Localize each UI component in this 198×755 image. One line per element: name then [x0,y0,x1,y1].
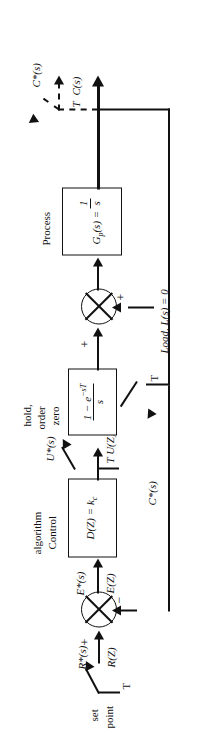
output-label: C(s) [70,76,82,95]
setpoint-arrowhead-icon [94,630,104,639]
error-arrowhead-icon [93,558,103,567]
reference-z-label: R(Z) [105,647,117,667]
summer2-load-plus-sign: + [114,293,129,300]
zoh-caption-line1: zero [49,406,61,425]
control-algorithm-transfer-function: D(Z) = kc [85,496,100,539]
summer2-to-process-line [97,264,99,290]
output-sampler-dashed-branch-horizontal [58,82,60,110]
control-star-label: U*(s) [44,436,56,461]
control-algorithm-caption-line2: algorithm [31,511,43,554]
control-output-arrowhead-icon [93,447,103,456]
load-arrowhead-icon [112,302,121,312]
zero-order-hold-transfer-function: 1 − e−sT s [80,383,105,419]
output-star-arrowhead-icon [54,75,64,84]
set-point-label-line2: point [103,705,115,728]
zoh-output-arrowhead-icon [93,327,103,336]
output-sampler-blade-arrowhead-icon [26,113,39,126]
control-algorithm-block: D(Z) = kc [68,478,117,557]
control-algorithm-caption-line1: Control [46,515,58,549]
control-z-label: T U(Z) [104,433,116,463]
control-sampler-stem [97,467,119,469]
set-point-label-line1: set [88,709,100,721]
summer1-minus-sign: − [112,596,127,603]
feedback-sampler-stem [146,383,170,385]
output-arrowhead-icon [92,75,104,86]
setpoint-to-summer-line [98,637,100,663]
figure-canvas: set point T R*(s) R(Z) + − E*(s) E(Z) D(… [0,0,198,755]
reference-star-label: R*(s) [76,645,88,669]
feedback-into-summer1-arrowhead-icon [112,605,121,615]
output-sampler-T-label: T [70,101,82,107]
output-sampler-dashed-branch-vertical [58,108,98,110]
feedback-sampler-T-label: T [148,374,160,381]
summer2-process-plus-sign: + [78,340,93,347]
error-star-label: E*(s) [74,571,86,595]
error-line [97,565,99,593]
zoh-caption-line2: order [35,406,47,429]
process-block: Gp(s) = 1 s [62,187,122,255]
summer1-plus-sign: + [78,638,93,645]
error-z-label: E(Z) [104,573,116,593]
feedback-sampler-arrowhead-icon [143,408,156,421]
setpoint-sampler-blade [85,668,100,694]
zero-order-hold-block: 1 − e−sT s [68,368,117,435]
block-diagram: set point T R*(s) R(Z) + − E*(s) E(Z) D(… [0,0,198,755]
process-output-line [97,82,100,189]
setpoint-sampler-T-label: T [120,682,132,689]
setpoint-sampler-stem [98,691,120,693]
process-input-arrowhead-icon [93,257,103,266]
feedback-down-line [98,108,170,110]
process-transfer-function: Gp(s) = 1 s [78,198,105,244]
feedback-sampler-blade [120,380,138,406]
zoh-caption-line3: hold, [21,404,33,426]
zoh-output-line [97,334,99,370]
feedback-horizontal-line [168,108,170,385]
output-star-label: C*(s) [30,63,42,87]
control-sampler-blade [61,446,76,470]
process-caption: Process [40,211,52,245]
feedback-return-line [168,385,170,611]
feedback-star-label: C*(s) [146,481,158,505]
load-line [128,306,154,308]
